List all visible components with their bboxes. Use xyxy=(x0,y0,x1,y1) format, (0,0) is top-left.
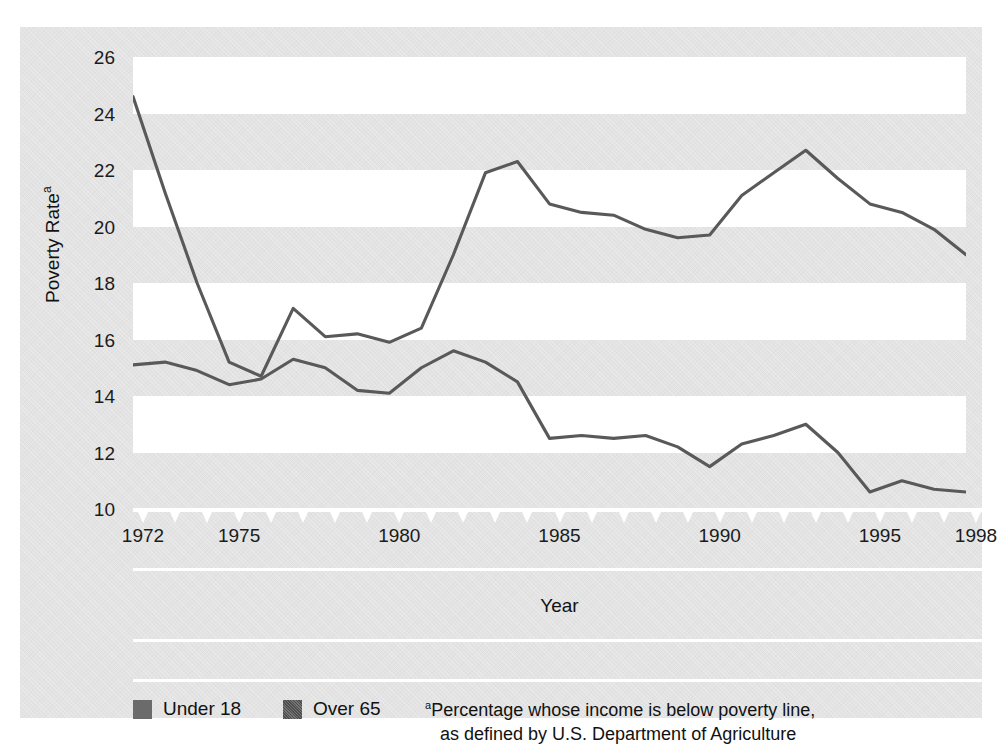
plot-area xyxy=(133,57,966,509)
x-axis-tick-marker xyxy=(843,512,853,523)
x-axis-tick-marker xyxy=(651,512,661,523)
x-axis-tick-marker xyxy=(394,512,404,523)
legend-label-over-65: Over 65 xyxy=(313,698,381,720)
y-axis-label: Poverty Ratea xyxy=(40,150,63,340)
series-lines-container xyxy=(133,57,966,509)
x-axis-tick-marker xyxy=(170,512,180,523)
x-axis-tick-marker xyxy=(747,512,757,523)
x-axis-tick-label: 1990 xyxy=(699,525,741,547)
x-axis-tick-marker xyxy=(555,512,565,523)
y-axis-tick-label: 24 xyxy=(63,105,115,124)
y-axis-label-superscript: a xyxy=(40,186,54,193)
legend-label-under-18: Under 18 xyxy=(163,698,241,720)
x-axis-tick-marker xyxy=(298,512,308,523)
y-axis-tick-label: 22 xyxy=(63,161,115,180)
legend-swatch-icon-over-65 xyxy=(283,700,302,719)
divider-rule-bottom xyxy=(133,679,986,682)
footnote-line-2: as defined by U.S. Department of Agricul… xyxy=(425,722,815,745)
x-axis-tick-label: 1972 xyxy=(122,525,164,547)
x-axis-tick-marker xyxy=(811,512,821,523)
x-axis-tick-marker xyxy=(202,512,212,523)
x-axis-tick-marker xyxy=(426,512,436,523)
y-axis-tick-label: 14 xyxy=(63,387,115,406)
legend-item-under-18: Under 18 xyxy=(133,698,241,720)
x-axis-tick-marker xyxy=(522,512,532,523)
y-axis-tick-label: 10 xyxy=(63,500,115,519)
x-axis-tick-marker xyxy=(362,512,372,523)
x-axis-tick-labels: 1972197519801985199019951998 xyxy=(20,525,982,553)
footnote-line-1: Percentage whose income is below poverty… xyxy=(431,700,815,720)
x-axis-tick-marker xyxy=(907,512,917,523)
x-axis-tick-marker xyxy=(971,512,981,523)
legend-item-over-65: Over 65 xyxy=(283,698,381,720)
x-axis-tick-marker xyxy=(875,512,885,523)
chart-legend: Under 18 Over 65 aPercentage whose incom… xyxy=(133,698,986,745)
x-axis-tick-label: 1998 xyxy=(955,525,997,547)
x-axis-tick-marker xyxy=(779,512,789,523)
x-axis-tick-markers xyxy=(133,512,986,526)
y-axis-tick-label: 16 xyxy=(63,331,115,350)
x-axis-tick-marker xyxy=(939,512,949,523)
divider-rule-middle xyxy=(133,639,986,642)
x-axis-tick-label: 1975 xyxy=(218,525,260,547)
x-axis-tick-marker xyxy=(458,512,468,523)
x-axis-tick-label: 1995 xyxy=(859,525,901,547)
chart-footnote: aPercentage whose income is below povert… xyxy=(425,698,815,745)
x-axis-tick-marker xyxy=(587,512,597,523)
y-axis-tick-label: 12 xyxy=(63,444,115,463)
y-axis-tick-label: 20 xyxy=(63,218,115,237)
y-axis-tick-label: 18 xyxy=(63,274,115,293)
x-axis-title: Year xyxy=(133,595,986,617)
x-axis-tick-marker xyxy=(234,512,244,523)
x-axis-tick-marker xyxy=(490,512,500,523)
y-axis-tick-label: 26 xyxy=(63,48,115,67)
x-axis-tick-marker xyxy=(619,512,629,523)
x-axis-tick-marker xyxy=(138,512,148,523)
x-axis-tick-marker xyxy=(266,512,276,523)
legend-swatch-icon-under-18 xyxy=(133,700,152,719)
x-axis-tick-label: 1980 xyxy=(378,525,420,547)
x-axis-tick-marker xyxy=(330,512,340,523)
series-line-over-65 xyxy=(133,97,966,377)
x-axis-tick-label: 1985 xyxy=(538,525,580,547)
chart-figure: 101214161820222426 Poverty Ratea 1972197… xyxy=(20,27,982,718)
divider-rule-top xyxy=(133,568,986,571)
x-axis-tick-marker xyxy=(715,512,725,523)
series-line-under-18 xyxy=(133,351,966,492)
x-axis-tick-marker xyxy=(683,512,693,523)
chart-svg xyxy=(133,57,966,509)
y-axis-label-text: Poverty Rate xyxy=(42,193,63,303)
